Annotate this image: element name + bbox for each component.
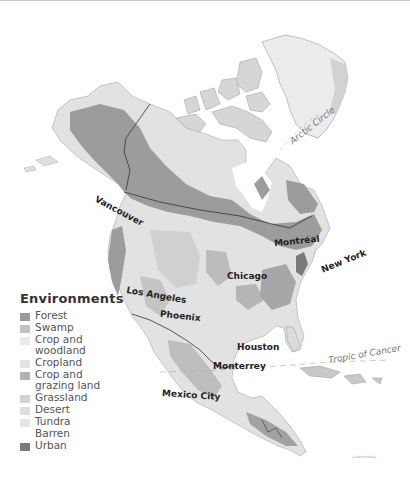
- cropland-swatch: [20, 360, 30, 368]
- legend-label: Barren: [35, 428, 70, 439]
- legend: Environments Forest Swamp Crop and woodl…: [20, 291, 140, 452]
- tundra-swatch: [20, 419, 30, 427]
- legend-item-urban: Urban: [20, 440, 140, 451]
- crop-grazing-swatch: [20, 372, 30, 380]
- city-label-houston: Houston: [237, 342, 279, 352]
- legend-label: Crop and woodland: [35, 334, 86, 356]
- forest-swatch: [20, 313, 30, 321]
- crop-woodland-swatch: [20, 337, 30, 345]
- legend-item-grassland: Grassland: [20, 392, 140, 403]
- legend-label: Swamp: [35, 322, 74, 333]
- legend-item-cropland: Cropland: [20, 357, 140, 368]
- legend-label: Cropland: [35, 357, 82, 368]
- legend-item-swamp: Swamp: [20, 322, 140, 333]
- legend-label: Crop and grazing land: [35, 369, 100, 391]
- legend-title: Environments: [20, 291, 140, 306]
- swamp-swatch: [20, 325, 30, 333]
- legend-label: Desert: [35, 404, 70, 415]
- legend-item-tundra: Tundra: [20, 416, 140, 427]
- legend-item-crop-woodland: Crop and woodland: [20, 334, 140, 356]
- desert-swatch: [20, 407, 30, 415]
- copyright-text: © Rand McNally: [352, 455, 376, 459]
- legend-label: Grassland: [35, 392, 88, 403]
- urban-swatch: [20, 443, 30, 451]
- legend-item-desert: Desert: [20, 404, 140, 415]
- city-label-chicago: Chicago: [227, 271, 267, 281]
- legend-label: Forest: [35, 310, 67, 321]
- grassland-swatch: [20, 395, 30, 403]
- legend-item-crop-grazing: Crop and grazing land: [20, 369, 140, 391]
- legend-label: Urban: [35, 440, 67, 451]
- barren-swatch: [20, 431, 30, 439]
- legend-label: Tundra: [35, 416, 71, 427]
- legend-item-forest: Forest: [20, 310, 140, 321]
- legend-item-barren: Barren: [20, 428, 140, 439]
- city-label-monterrey: Monterrey: [213, 361, 266, 371]
